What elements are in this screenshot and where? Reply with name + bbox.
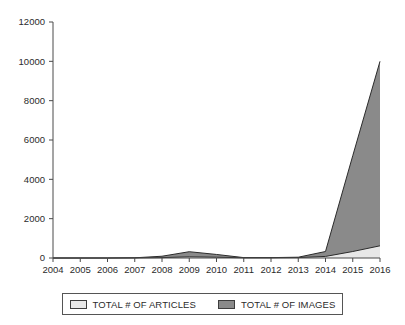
svg-text:2007: 2007 xyxy=(124,264,145,275)
legend-entry-total-images: TOTAL # OF IMAGES xyxy=(218,299,335,310)
svg-text:2015: 2015 xyxy=(342,264,363,275)
svg-text:2000: 2000 xyxy=(24,213,45,224)
series-line-total-images xyxy=(53,61,380,258)
chart-axes xyxy=(49,22,380,262)
legend-label-total-articles: TOTAL # OF ARTICLES xyxy=(93,299,196,310)
svg-text:6000: 6000 xyxy=(24,134,45,145)
svg-text:2006: 2006 xyxy=(97,264,118,275)
legend-swatch-total-articles xyxy=(70,300,87,309)
svg-text:4000: 4000 xyxy=(24,174,45,185)
area-chart-plot: 020004000600080001000012000 200420052006… xyxy=(0,0,405,325)
svg-text:2012: 2012 xyxy=(260,264,281,275)
legend-swatch-total-images xyxy=(218,300,235,309)
series-areas xyxy=(53,61,380,258)
chart-legend: TOTAL # OF ARTICLES TOTAL # OF IMAGES xyxy=(62,293,343,315)
svg-text:2010: 2010 xyxy=(206,264,227,275)
svg-text:2014: 2014 xyxy=(315,264,336,275)
legend-entry-total-articles: TOTAL # OF ARTICLES xyxy=(70,299,196,310)
svg-text:12000: 12000 xyxy=(19,16,45,27)
svg-text:2008: 2008 xyxy=(151,264,172,275)
svg-text:2004: 2004 xyxy=(42,264,63,275)
series-area-total-images xyxy=(53,61,380,258)
svg-text:2005: 2005 xyxy=(70,264,91,275)
x-axis-tick-labels: 2004200520062007200820092010201120122013… xyxy=(42,264,390,275)
svg-text:8000: 8000 xyxy=(24,95,45,106)
svg-text:2011: 2011 xyxy=(234,264,254,275)
svg-text:2013: 2013 xyxy=(288,264,309,275)
svg-text:2016: 2016 xyxy=(369,264,390,275)
chart-container: 020004000600080001000012000 200420052006… xyxy=(0,0,405,325)
legend-label-total-images: TOTAL # OF IMAGES xyxy=(241,299,335,310)
svg-text:2009: 2009 xyxy=(179,264,200,275)
svg-text:10000: 10000 xyxy=(19,56,45,67)
svg-text:0: 0 xyxy=(40,252,45,263)
y-axis-tick-labels: 020004000600080001000012000 xyxy=(19,16,45,263)
